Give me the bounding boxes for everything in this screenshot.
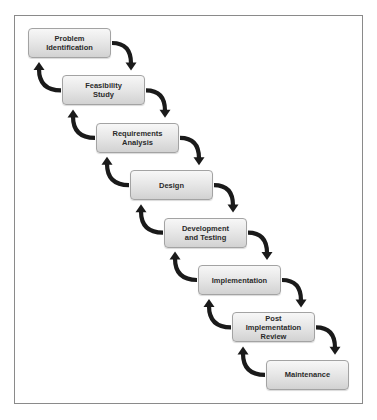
step-box-design: Design [130, 170, 213, 200]
feedback-arrow-curve [39, 69, 61, 90]
forward-arrow-curve [248, 233, 267, 253]
step-label: Feasibility Study [85, 81, 122, 99]
forward-arrow-curve [316, 327, 335, 347]
feedback-arrow-curve [175, 259, 197, 280]
forward-arrow-head-icon [194, 157, 205, 165]
forward-arrow-curve [282, 280, 301, 300]
feedback-arrow-curve [107, 164, 129, 185]
forward-arrow-head-icon [296, 299, 307, 307]
step-label: Maintenance [285, 370, 330, 379]
feedback-arrow-head-icon [136, 204, 147, 212]
feedback-arrow-head-icon [34, 62, 45, 70]
forward-arrow-curve [180, 138, 199, 158]
forward-arrow-head-icon [160, 110, 171, 118]
feedback-arrow-curve [209, 306, 231, 327]
feedback-arrow-curve [73, 116, 95, 137]
forward-arrow-curve [112, 43, 131, 63]
step-label: Development and Testing [182, 224, 229, 242]
feedback-arrow-head-icon [204, 299, 215, 307]
step-label: Requirements Analysis [112, 129, 162, 147]
step-label: Post Implementation Review [246, 314, 301, 341]
arrows-layer [0, 0, 377, 420]
feedback-arrow-curve [141, 211, 163, 232]
step-label: Implementation [212, 276, 267, 285]
forward-arrow-curve [214, 185, 233, 205]
step-box-feasibility-study: Feasibility Study [62, 75, 145, 105]
step-box-development-and-testing: Development and Testing [164, 218, 247, 248]
feedback-arrow-head-icon [170, 252, 181, 260]
feedback-arrow-curve [243, 353, 265, 374]
step-box-requirements-analysis: Requirements Analysis [96, 123, 179, 153]
step-box-post-implementation-review: Post Implementation Review [232, 312, 315, 342]
feedback-arrow-head-icon [238, 346, 249, 354]
forward-arrow-curve [146, 90, 165, 110]
step-box-implementation: Implementation [198, 265, 281, 295]
forward-arrow-head-icon [262, 252, 273, 260]
step-label: Design [159, 181, 184, 190]
feedback-arrow-head-icon [102, 157, 113, 165]
forward-arrow-head-icon [330, 347, 341, 355]
step-box-problem-identification: Problem Identification [28, 28, 111, 58]
step-label: Problem Identification [46, 34, 93, 52]
forward-arrow-head-icon [126, 62, 137, 70]
feedback-arrow-head-icon [68, 109, 79, 117]
forward-arrow-head-icon [228, 205, 239, 213]
step-box-maintenance: Maintenance [266, 360, 349, 390]
